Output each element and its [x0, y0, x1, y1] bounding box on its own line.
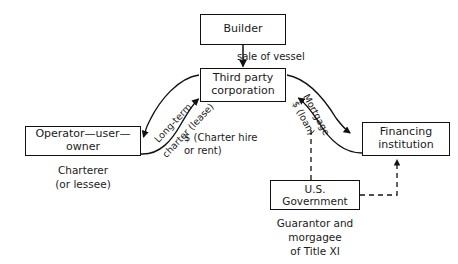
- edge-label-charter-hire-or-rent: $ (Charter hire or rent): [184, 131, 258, 157]
- node-operator-user-owner[interactable]: Operator—user—owner: [25, 126, 141, 156]
- node-builder[interactable]: Builder: [200, 14, 286, 45]
- node-third-party-corporation[interactable]: Third party corporation: [200, 68, 286, 102]
- diagram-canvas: Builder Third party corporation Operator…: [0, 0, 458, 264]
- node-third-party-corporation-label: Third party corporation: [211, 72, 274, 98]
- node-financing-institution[interactable]: Financing institution: [362, 122, 450, 156]
- edge-government-to-financing: [360, 160, 397, 195]
- edge-label-sale-of-vessel: sale of vessel: [237, 50, 305, 63]
- node-builder-label: Builder: [224, 23, 263, 36]
- node-us-government-label: U.S. Government: [271, 183, 359, 208]
- caption-government-role: Guarantor and morgagee of Title XI: [262, 216, 368, 259]
- caption-charterer: Charterer (or lessee): [25, 163, 141, 191]
- node-operator-user-owner-label: Operator—user—owner: [26, 128, 140, 154]
- node-us-government[interactable]: U.S. Government: [270, 180, 360, 210]
- node-financing-institution-label: Financing institution: [378, 126, 433, 152]
